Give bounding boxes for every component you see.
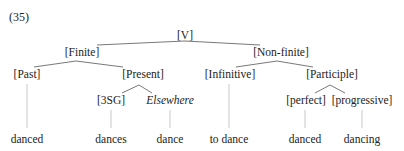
leaf-dance: dance	[157, 133, 184, 146]
node-present: [Present]	[122, 68, 164, 81]
node-v: [V]	[177, 29, 193, 42]
leaf-danced-perfect: danced	[289, 133, 322, 146]
node-infinitive: [Infinitive]	[205, 68, 255, 81]
leaf-dancing: dancing	[344, 133, 380, 146]
node-nonfinite: [Non-finite]	[253, 46, 309, 59]
leaf-to-dance: to dance	[210, 133, 249, 146]
leaf-dances: dances	[95, 133, 126, 146]
node-elsewhere: Elsewhere	[146, 94, 193, 107]
branch-finite-present	[76, 61, 123, 67]
node-3sg: [3SG]	[97, 94, 125, 107]
branch-v-finite	[97, 41, 185, 45]
branch-present-elsewhere	[139, 85, 152, 93]
branch-nonfinite-infinitive	[236, 61, 277, 67]
node-perfect: [perfect]	[286, 94, 326, 107]
branch-nonfinite-participle	[277, 61, 313, 67]
branch-participle-progressive	[330, 85, 345, 93]
branch-present-3sg	[122, 85, 139, 93]
node-progressive: [progressive]	[332, 94, 393, 107]
branch-finite-past	[34, 61, 76, 67]
node-past: [Past]	[14, 68, 41, 81]
feature-tree-diagram: (35) [V] [Finite] [Non-finite] [Past] [P…	[0, 0, 404, 151]
branch-v-nonfinite	[185, 41, 260, 45]
node-participle: [Participle]	[306, 68, 358, 81]
leaf-danced-past: danced	[11, 133, 44, 146]
node-finite: [Finite]	[65, 46, 100, 59]
branch-participle-perfect	[315, 85, 330, 93]
